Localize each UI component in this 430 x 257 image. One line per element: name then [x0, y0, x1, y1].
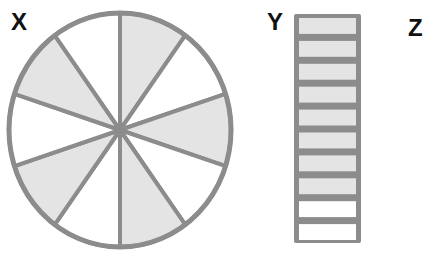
shaded-cell — [299, 133, 356, 149]
shaded-cell — [299, 41, 356, 57]
shaded-cell — [299, 110, 356, 126]
shaded-cell — [299, 64, 356, 80]
fraction-bar-y — [294, 14, 361, 243]
unshaded-cell — [299, 224, 356, 240]
shaded-cell — [299, 87, 356, 103]
diagram-canvas — [0, 0, 430, 257]
shaded-cell — [299, 178, 356, 194]
shaded-cell — [299, 18, 356, 34]
fraction-circle-x — [9, 13, 231, 247]
shaded-cell — [299, 155, 356, 171]
unshaded-cell — [299, 201, 356, 217]
